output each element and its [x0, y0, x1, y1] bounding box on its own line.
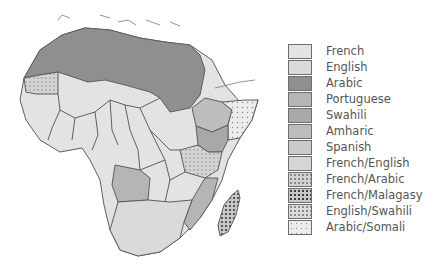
swatch-amharic: [288, 124, 312, 139]
legend: French English Arabic Portuguese Swahili…: [288, 43, 443, 235]
legend-label: Portuguese: [326, 91, 391, 107]
legend-item-english: English: [288, 59, 443, 75]
legend-item-french-english: French/English: [288, 155, 443, 171]
legend-item-french: French: [288, 43, 443, 59]
swatch-arabic: [288, 76, 312, 91]
legend-item-french-arabic: French/Arabic: [288, 171, 443, 187]
swatch-swahili: [288, 108, 312, 123]
swatch-french: [288, 44, 312, 59]
legend-label: French/Malagasy: [326, 187, 422, 203]
swatch-english: [288, 60, 312, 75]
swatch-spanish: [288, 140, 312, 155]
region-southern: [110, 200, 192, 256]
swatch-french-arabic: [288, 172, 312, 187]
africa-language-map: [0, 0, 285, 272]
legend-label: Arabic/Somali: [326, 219, 405, 235]
legend-item-amharic: Amharic: [288, 123, 443, 139]
legend-label: French: [326, 43, 364, 59]
swatch-arabic-somali: [288, 220, 312, 235]
legend-item-swahili: Swahili: [288, 107, 443, 123]
legend-label: English: [326, 59, 368, 75]
swatch-portuguese: [288, 92, 312, 107]
legend-label: Arabic: [326, 75, 362, 91]
legend-label: Amharic: [326, 123, 374, 139]
legend-item-spanish: Spanish: [288, 139, 443, 155]
swatch-french-malagasy: [288, 188, 312, 203]
swatch-french-english: [288, 156, 312, 171]
legend-item-portuguese: Portuguese: [288, 91, 443, 107]
legend-label: French/Arabic: [326, 171, 405, 187]
legend-label: Swahili: [326, 107, 367, 123]
legend-item-english-swahili: English/Swahili: [288, 203, 443, 219]
swatch-english-swahili: [288, 204, 312, 219]
region-madagascar: [218, 190, 240, 236]
legend-label: Spanish: [326, 139, 371, 155]
legend-label: English/Swahili: [326, 203, 412, 219]
legend-item-arabic-somali: Arabic/Somali: [288, 219, 443, 235]
legend-item-french-malagasy: French/Malagasy: [288, 187, 443, 203]
legend-label: French/English: [326, 155, 410, 171]
legend-item-arabic: Arabic: [288, 75, 443, 91]
